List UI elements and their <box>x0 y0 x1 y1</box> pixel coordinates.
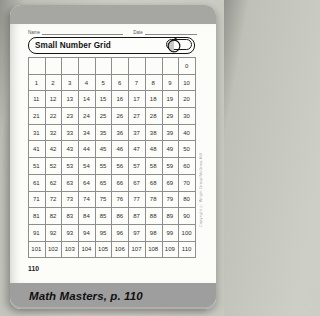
grid-cell: 53 <box>62 158 79 175</box>
grid-cell: 15 <box>95 91 112 108</box>
grid-row: 61626364656667686970 <box>29 174 196 191</box>
grid-cell: 54 <box>79 158 96 175</box>
grid-cell: 94 <box>79 224 96 241</box>
grid-cell <box>95 58 112 75</box>
grid-cell: 36 <box>112 124 129 141</box>
grid-cell: 70 <box>179 174 196 191</box>
grid-cell: 110 <box>179 241 196 258</box>
grid-cell: 3 <box>62 74 79 91</box>
grid-row: 81828384858687888990 <box>29 208 196 225</box>
grid-cell: 64 <box>79 174 96 191</box>
copyright-vertical-text: Copyright © Wright Group/McGraw-Hill <box>199 145 203 227</box>
grid-cell: 11 <box>29 91 46 108</box>
grid-cell: 4 <box>79 74 96 91</box>
grid-cell: 43 <box>62 141 79 158</box>
grid-cell: 47 <box>129 141 146 158</box>
grid-row: 31323334353637383940 <box>29 124 196 141</box>
grid-cell: 40 <box>179 124 196 141</box>
grid-cell: 38 <box>145 124 162 141</box>
grid-cell: 103 <box>62 241 79 258</box>
grid-cell: 86 <box>112 208 129 225</box>
grid-cell: 108 <box>145 241 162 258</box>
grid-cell: 92 <box>45 224 62 241</box>
grid-cell: 104 <box>79 241 96 258</box>
worksheet-card: Name Date Small Number Grid 012345678910… <box>10 5 216 309</box>
date-blank-line <box>145 33 197 35</box>
grid-cell: 55 <box>95 158 112 175</box>
grid-cell: 101 <box>29 241 46 258</box>
grid-cell: 69 <box>162 174 179 191</box>
grid-cell: 33 <box>62 124 79 141</box>
grid-row: 919293949596979899100 <box>29 224 196 241</box>
grid-cell: 23 <box>62 108 79 125</box>
grid-cell: 51 <box>29 158 46 175</box>
grid-cell: 60 <box>179 158 196 175</box>
grid-cell: 44 <box>79 141 96 158</box>
grid-cell: 97 <box>129 224 146 241</box>
grid-cell: 50 <box>179 141 196 158</box>
grid-cell: 99 <box>162 224 179 241</box>
grid-cell: 58 <box>145 158 162 175</box>
title-bar: Small Number Grid <box>28 37 195 54</box>
grid-cell: 75 <box>95 191 112 208</box>
grid-cell: 26 <box>112 108 129 125</box>
grid-cell: 85 <box>95 208 112 225</box>
grid-row: 12345678910 <box>29 74 196 91</box>
card-top-bar <box>10 5 216 24</box>
grid-cell: 17 <box>129 91 146 108</box>
grid-cell: 73 <box>62 191 79 208</box>
grid-cell: 96 <box>112 224 129 241</box>
grid-cell: 87 <box>129 208 146 225</box>
grid-cell: 30 <box>179 108 196 125</box>
grid-cell: 31 <box>29 124 46 141</box>
grid-cell: 48 <box>145 141 162 158</box>
grid-cell: 61 <box>29 174 46 191</box>
grid-cell: 9 <box>162 74 179 91</box>
grid-cell: 72 <box>45 191 62 208</box>
grid-cell: 0 <box>179 58 196 75</box>
grid-cell: 25 <box>95 108 112 125</box>
grid-cell <box>62 58 79 75</box>
grid-cell: 2 <box>45 74 62 91</box>
grid-cell: 95 <box>95 224 112 241</box>
grid-cell: 78 <box>145 191 162 208</box>
grid-cell: 91 <box>29 224 46 241</box>
grid-cell: 34 <box>79 124 96 141</box>
grid-cell: 52 <box>45 158 62 175</box>
grid-cell: 67 <box>129 174 146 191</box>
grid-cell: 89 <box>162 208 179 225</box>
grid-cell: 45 <box>95 141 112 158</box>
grid-cell: 80 <box>179 191 196 208</box>
grid-cell: 14 <box>79 91 96 108</box>
grid-cell: 63 <box>62 174 79 191</box>
grid-cell: 35 <box>95 124 112 141</box>
grid-cell: 10 <box>179 74 196 91</box>
grid-cell: 71 <box>29 191 46 208</box>
grid-cell: 57 <box>129 158 146 175</box>
grid-row: 101102103104105106107108109110 <box>29 241 196 258</box>
grid-cell: 76 <box>112 191 129 208</box>
grid-cell: 105 <box>95 241 112 258</box>
grid-cell: 46 <box>112 141 129 158</box>
grid-cell: 12 <box>45 91 62 108</box>
grid-row: 51525354555657585960 <box>29 158 196 175</box>
grid-cell: 1 <box>29 74 46 91</box>
grid-cell: 27 <box>129 108 146 125</box>
grid-cell: 106 <box>112 241 129 258</box>
grid-cell: 102 <box>45 241 62 258</box>
grid-cell: 56 <box>112 158 129 175</box>
grid-cell: 5 <box>95 74 112 91</box>
grid-row: 21222324252627282930 <box>29 108 196 125</box>
grid-cell: 37 <box>129 124 146 141</box>
apple-icon <box>166 37 182 53</box>
grid-cell: 109 <box>162 241 179 258</box>
grid-row: 11121314151617181920 <box>29 91 196 108</box>
grid-cell: 42 <box>45 141 62 158</box>
name-blank-line <box>42 33 123 35</box>
grid-cell: 49 <box>162 141 179 158</box>
grid-cell <box>129 58 146 75</box>
grid-cell: 39 <box>162 124 179 141</box>
grid-cell: 16 <box>112 91 129 108</box>
grid-cell: 59 <box>162 158 179 175</box>
footer-bar: Math Masters, p. 110 <box>10 283 216 309</box>
